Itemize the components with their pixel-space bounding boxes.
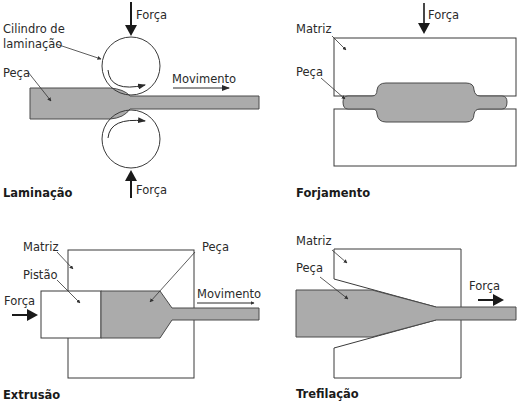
right-arrow-icon: [478, 294, 504, 306]
panel-title: Laminação: [3, 186, 73, 200]
roll-label: Cilindro de: [3, 22, 65, 36]
panel-title: Extrusão: [3, 388, 60, 402]
panel-title: Trefilação: [296, 387, 359, 401]
die-label: Matriz: [296, 234, 331, 248]
force-label: Força: [136, 183, 167, 197]
force-label: Força: [428, 8, 459, 22]
rotation-arrow-icon: [108, 120, 145, 138]
panel-extrusao: Matriz Pistão Força Peça Movimento Extru…: [3, 240, 261, 402]
movement-label: Movimento: [197, 287, 261, 301]
roll-bottom: [102, 110, 160, 168]
laminacao-piece: [30, 88, 259, 119]
rotation-arrow-icon: [108, 70, 145, 87]
die-label: Matriz: [23, 240, 58, 254]
right-arrow-icon: [12, 309, 38, 321]
piece-label: Peça: [202, 240, 229, 254]
force-label: Força: [469, 279, 500, 293]
piston: [41, 291, 101, 338]
die-label: Matriz: [296, 22, 331, 36]
piece-label: Peça: [296, 261, 323, 275]
panel-title: Forjamento: [296, 186, 370, 200]
force-label: Força: [136, 8, 167, 22]
piece-label: Peça: [296, 65, 323, 79]
movement-label: Movimento: [172, 72, 236, 86]
force-label: Força: [4, 294, 35, 308]
panel-trefilacao: Matriz Peça Força Trefilação: [296, 234, 516, 401]
roll-label: laminação: [3, 37, 62, 51]
panel-forjamento: Força Matriz Peça Forjamento: [296, 3, 516, 200]
roll-top: [102, 37, 160, 95]
panel-laminacao: Força Força Cilindro de laminação Peça M…: [3, 2, 259, 200]
piston-label: Pistão: [23, 268, 57, 282]
piece-label: Peça: [3, 66, 30, 80]
